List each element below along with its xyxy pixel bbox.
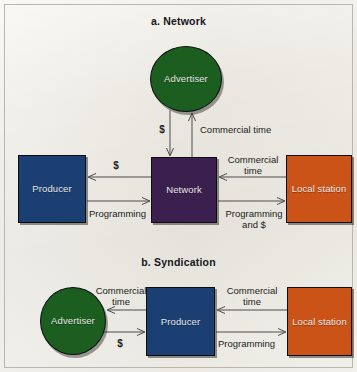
edge-label-money-to-producer-syndication: $ xyxy=(110,338,130,349)
panel-title-syndication: b. Syndication xyxy=(0,256,357,268)
node-producer-syndication-panel[interactable]: Producer xyxy=(146,287,215,356)
edge-label-programming-and-money-to-station: Programming and $ xyxy=(218,208,290,230)
edge-label-programming-to-station: Programming xyxy=(218,338,298,349)
node-label: Producer xyxy=(29,183,74,195)
node-producer-network-panel[interactable]: Producer xyxy=(18,155,86,223)
node-advertiser-network-panel[interactable]: Advertiser xyxy=(150,46,222,112)
node-label: Local station xyxy=(289,316,350,328)
edge-label-money-to-producer: $ xyxy=(106,160,126,171)
edge-label-commercial-time-to-advertiser: Commercial time xyxy=(88,285,154,307)
node-label: Advertiser xyxy=(161,73,211,85)
edge-label-commercial-time-from-station-syndication: Commercial time xyxy=(218,285,286,307)
edge-label-programming-to-network: Programming xyxy=(89,208,169,219)
node-label: Producer xyxy=(158,316,203,328)
edge-label-money-to-advertiser: $ xyxy=(152,124,172,135)
edge-label-commercial-time-from-station: Commercial time xyxy=(219,154,287,176)
panel-title-network: a. Network xyxy=(0,15,357,27)
node-local-station-network-panel[interactable]: Local station xyxy=(286,155,352,223)
edge-label-commercial-time-from-advertiser: Commercial time xyxy=(200,124,330,135)
television-economics-diagram: a. Network Advertiser Producer Network L… xyxy=(0,0,357,372)
node-label: Advertiser xyxy=(48,315,98,327)
node-label: Local station xyxy=(289,183,350,195)
node-label: Network xyxy=(163,184,205,196)
